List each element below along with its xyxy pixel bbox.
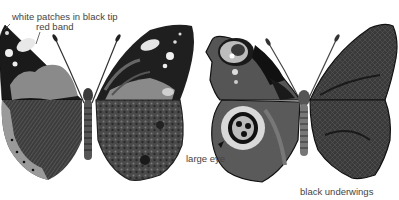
butterfly-comparison-figure: white patches in black tip red band larg…: [0, 0, 399, 200]
band-leader-line: [36, 32, 40, 44]
peacock-butterfly: [206, 24, 397, 182]
label-large-eye: large eye: [186, 154, 225, 164]
label-black-underwings: black underwings: [300, 187, 373, 197]
red-admiral-butterfly: [0, 25, 194, 181]
label-red-band: red band: [36, 22, 74, 32]
